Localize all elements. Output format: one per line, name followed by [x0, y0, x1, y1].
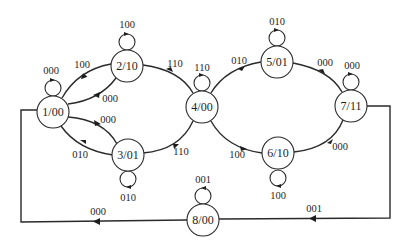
edge-label-8-1: 000 [90, 206, 106, 217]
edge-label-5-7: 000 [317, 57, 333, 68]
svg-text:8/00: 8/00 [192, 213, 213, 227]
state-6: 6/10 [262, 137, 294, 169]
svg-text:3/01: 3/01 [117, 148, 138, 162]
self-loop-2: 100 [119, 19, 135, 51]
arrow-icon [93, 218, 100, 225]
self-loop-4: 110 [194, 62, 210, 92]
edge-label-1-3: 010 [72, 149, 88, 160]
state-8: 8/00 [187, 204, 219, 236]
state-5: 5/01 [261, 46, 293, 78]
svg-text:1/00: 1/00 [42, 105, 63, 119]
svg-text:5/01: 5/01 [266, 55, 287, 69]
svg-text:6/10: 6/10 [267, 146, 288, 160]
arrow-icon [80, 140, 86, 144]
svg-text:7/11: 7/11 [341, 99, 362, 113]
svg-text:010: 010 [269, 16, 285, 27]
svg-text:000: 000 [43, 65, 59, 76]
edge-7-to-8 [219, 106, 390, 219]
state-7: 7/11 [335, 90, 367, 122]
edge-label-2-1: 000 [102, 93, 118, 104]
self-loop-1: 000 [43, 65, 61, 97]
state-diagram: 100 000 000 010 110 110 010 100 000 000 … [0, 0, 407, 245]
edge-label-3-1: 000 [100, 114, 116, 125]
svg-text:010: 010 [120, 192, 136, 203]
state-1: 1/00 [37, 96, 69, 128]
self-loop-5: 010 [269, 16, 285, 47]
svg-text:4/00: 4/00 [191, 100, 212, 114]
svg-text:2/10: 2/10 [116, 59, 137, 73]
self-loop-3: 010 [120, 171, 136, 203]
edge-label-6-7: 000 [332, 141, 348, 152]
edge-label-4-5: 010 [231, 55, 247, 66]
state-4: 4/00 [186, 91, 218, 123]
svg-text:100: 100 [270, 190, 286, 201]
state-3: 3/01 [112, 139, 144, 171]
self-loop-6: 100 [270, 170, 286, 201]
svg-text:001: 001 [195, 174, 211, 185]
arrow-icon [309, 215, 316, 222]
self-loop-8: 001 [195, 174, 211, 205]
edge-4-to-5 [211, 62, 261, 93]
self-loop-7: 000 [343, 60, 360, 91]
edge-label-1-2: 100 [74, 59, 90, 70]
edge-label-4-6: 100 [229, 149, 245, 160]
edge-label-7-8: 001 [306, 203, 322, 214]
edge-label-3-4: 110 [173, 146, 188, 157]
svg-text:110: 110 [194, 62, 209, 73]
edge-label-2-4: 110 [167, 58, 182, 69]
svg-text:100: 100 [119, 19, 135, 30]
svg-text:000: 000 [344, 60, 360, 71]
state-2: 2/10 [111, 50, 143, 82]
